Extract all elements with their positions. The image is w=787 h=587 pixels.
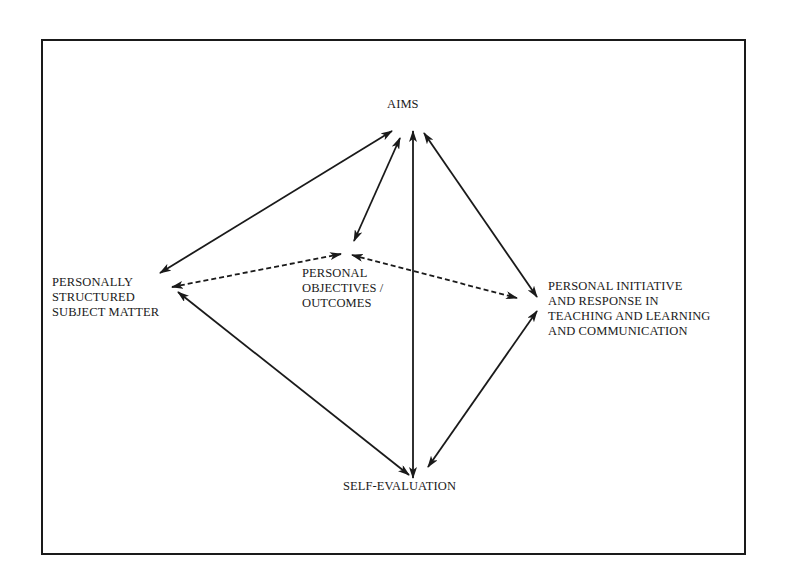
node-label: STRUCTURED [52,290,159,305]
edge-aims-objectives [354,138,400,241]
edge-initiative-self-evaluation [428,311,537,467]
node-label: SELF-EVALUATION [343,479,456,494]
node-personal-initiative: PERSONAL INITIATIVE AND RESPONSE IN TEAC… [548,279,711,339]
node-personal-objectives-outcomes: PERSONAL OBJECTIVES / OUTCOMES [302,266,383,311]
node-self-evaluation: SELF-EVALUATION [343,479,456,494]
edge-aims-initiative [424,133,537,297]
node-label: TEACHING AND LEARNING [548,309,711,324]
node-label: AIMS [387,97,419,112]
node-label: PERSONAL [302,266,383,281]
node-personally-structured-subject-matter: PERSONALLY STRUCTURED SUBJECT MATTER [52,275,159,320]
node-label: OUTCOMES [302,296,383,311]
node-label: AND RESPONSE IN [548,294,711,309]
node-label: PERSONAL INITIATIVE [548,279,711,294]
node-label: AND COMMUNICATION [548,324,711,339]
node-label: PERSONALLY [52,275,159,290]
edge-aims-subject [160,131,392,273]
node-aims: AIMS [387,97,419,112]
edge-subject-self-evaluation [178,292,409,475]
node-label: SUBJECT MATTER [52,305,159,320]
node-label: OBJECTIVES / [302,281,383,296]
